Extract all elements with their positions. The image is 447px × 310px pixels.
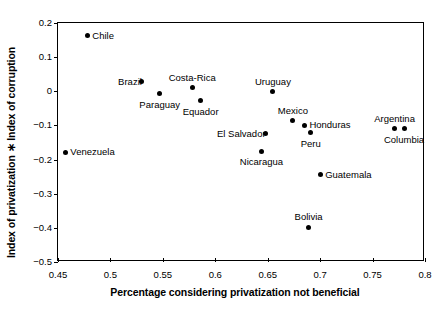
x-tick-mark <box>163 258 164 262</box>
y-tick-label: −0.2 <box>33 153 52 166</box>
x-tick-label: 0.65 <box>258 268 277 281</box>
data-point[interactable] <box>302 123 307 128</box>
data-point-label: Columbia <box>384 134 424 145</box>
scatter-plot-figure: Index of privatization ∗ Index of corrup… <box>0 0 447 310</box>
data-point[interactable] <box>402 126 407 131</box>
data-point[interactable] <box>318 172 323 177</box>
data-point[interactable] <box>392 126 397 131</box>
y-tick-mark <box>54 194 58 195</box>
y-tick-label: −0.4 <box>33 221 52 234</box>
x-axis-title: Percentage considering privatization not… <box>40 286 430 298</box>
data-point-label: Nicaragua <box>240 156 283 167</box>
x-tick-label: 0.45 <box>49 268 68 281</box>
y-tick-mark <box>54 160 58 161</box>
x-tick-mark <box>373 258 374 262</box>
data-point-label: Paraguay <box>139 99 180 110</box>
data-point[interactable] <box>306 225 311 230</box>
y-tick-mark <box>54 262 58 263</box>
x-tick-label: 0.8 <box>418 268 431 281</box>
data-point-label: Chile <box>92 30 114 41</box>
x-tick-mark <box>215 258 216 262</box>
y-tick-mark <box>54 91 58 92</box>
data-point[interactable] <box>63 150 68 155</box>
y-tick-label: −0.1 <box>33 118 52 131</box>
x-tick-mark <box>320 258 321 262</box>
y-tick-label: −0.5 <box>33 255 52 268</box>
data-point-label: Uruguay <box>255 76 291 87</box>
data-point-label: Bolivia <box>295 211 323 222</box>
y-axis-title: Index of privatization ∗ Index of corrup… <box>3 20 19 285</box>
data-point-label: Costa-Rica <box>169 72 216 83</box>
data-point-label: Mexico <box>278 105 308 116</box>
x-tick-mark <box>425 258 426 262</box>
y-tick-mark <box>54 228 58 229</box>
x-tick-label: 0.7 <box>314 268 327 281</box>
data-point[interactable] <box>290 118 295 123</box>
x-tick-mark <box>268 258 269 262</box>
data-point-label: Brazil <box>118 76 142 87</box>
y-tick-mark <box>54 57 58 58</box>
x-tick-label: 0.55 <box>154 268 173 281</box>
data-point[interactable] <box>85 33 90 38</box>
y-tick-label: 0.2 <box>39 16 52 29</box>
y-tick-label: 0.1 <box>39 50 52 63</box>
data-point-label: Argentina <box>374 113 415 124</box>
data-point[interactable] <box>259 149 264 154</box>
x-tick-mark <box>58 258 59 262</box>
data-point[interactable] <box>198 98 203 103</box>
data-point[interactable] <box>190 85 195 90</box>
data-point[interactable] <box>308 130 313 135</box>
x-tick-label: 0.5 <box>104 268 117 281</box>
y-tick-mark <box>54 125 58 126</box>
data-point-label: Venezuela <box>70 146 114 157</box>
data-point[interactable] <box>270 89 275 94</box>
x-tick-label: 0.6 <box>209 268 222 281</box>
x-tick-mark <box>110 258 111 262</box>
data-point-label: Equador <box>183 106 219 117</box>
data-point-label: Peru <box>301 138 321 149</box>
y-tick-mark <box>54 23 58 24</box>
data-point[interactable] <box>157 91 162 96</box>
y-tick-label: 0 <box>47 84 52 97</box>
x-tick-label: 0.75 <box>363 268 382 281</box>
y-tick-label: −0.3 <box>33 187 52 200</box>
plot-area: 0.20.10−0.1−0.2−0.3−0.4−0.5 0.450.50.550… <box>57 22 424 261</box>
data-point-label: Honduras <box>309 119 350 130</box>
data-point-label: El Salvador <box>217 128 266 139</box>
data-point-label: Guatemala <box>325 169 371 180</box>
